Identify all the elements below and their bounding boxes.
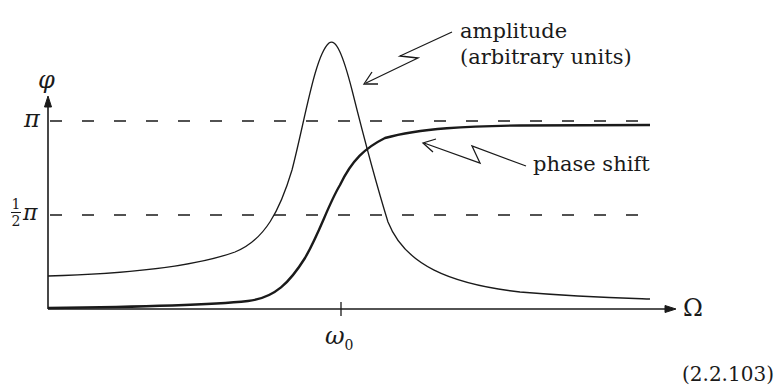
tick-label-pi: π (24, 105, 40, 133)
omega-subscript: 0 (345, 337, 354, 353)
phase-pointer (424, 143, 526, 166)
phase-shift-annotation: phase shift (533, 151, 650, 177)
x-axis-arrow-icon (665, 306, 676, 313)
y-axis-arrow-icon (45, 96, 52, 107)
y-axis-label: φ (38, 66, 55, 94)
omega-symbol: ω (325, 322, 345, 350)
axes (45, 96, 677, 316)
amplitude-annotation: amplitude (460, 18, 567, 44)
fraction-numerator: 1 (12, 197, 21, 211)
amplitude-units-annotation: (arbitrary units) (460, 44, 632, 70)
x-axis-label: Ω (683, 294, 703, 322)
tick-label-half-pi: 1 2 π (11, 197, 37, 228)
fraction-denominator: 2 (12, 214, 21, 228)
half-pi-symbol: π (23, 200, 37, 225)
equation-number: (2.2.103) (682, 362, 774, 386)
resonance-plot (0, 0, 777, 390)
amplitude-pointer (366, 32, 452, 83)
omega0-label: ω0 (325, 322, 354, 353)
